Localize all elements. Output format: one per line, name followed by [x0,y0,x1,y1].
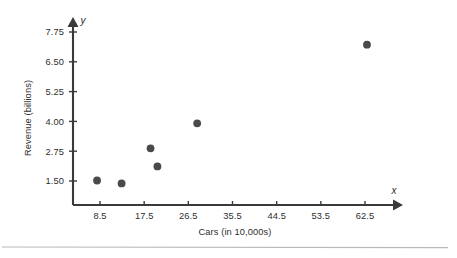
y-tick-label: 5.25 [46,87,65,97]
y-tick-label: 7.75 [46,27,65,37]
x-tick-labels-group: 8.517.526.535.544.553.562.5 [93,211,374,221]
plot-area: 8.517.526.535.544.553.562.5 1.502.754.00… [0,0,457,258]
y-tick-label: 4.00 [46,117,65,127]
x-tick-label: 17.5 [135,211,154,221]
bottom-divider [2,247,448,248]
y-tick-label: 1.50 [46,176,65,186]
data-point [118,179,126,187]
data-point [93,177,101,185]
scatter-plot-figure: 8.517.526.535.544.553.562.5 1.502.754.00… [0,0,457,258]
data-point [147,144,155,152]
x-axis-arrow-icon [393,200,403,211]
axes-group [68,17,404,211]
x-tick-label: 62.5 [356,211,375,221]
x-tick-label: 26.5 [179,211,198,221]
y-tick-label: 2.75 [46,147,65,157]
x-tick-label: 53.5 [312,211,331,221]
data-point [154,163,162,171]
data-point [363,41,371,49]
x-axis-variable-label: x [391,185,398,196]
data-points-group [93,41,371,188]
x-tick-label: 35.5 [223,211,242,221]
data-point [193,119,201,127]
y-tick-label: 6.50 [46,57,65,67]
chart-canvas: 8.517.526.535.544.553.562.5 1.502.754.00… [0,0,457,258]
x-tick-label: 8.5 [93,211,106,221]
y-tick-labels-group: 1.502.754.005.256.507.75 [46,27,65,186]
y-axis-title: Revenue (billions) [23,80,33,156]
y-axis-arrow-icon [68,17,79,27]
y-axis-variable-label: y [80,15,87,26]
x-axis-title: Cars (in 10,000s) [198,227,271,237]
x-tick-label: 44.5 [267,211,286,221]
